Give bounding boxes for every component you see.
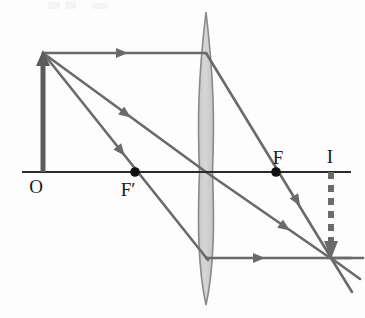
object-arrow (36, 50, 50, 172)
converging-lens (199, 12, 214, 305)
ray-overshoot-center (331, 258, 360, 279)
image-arrow (324, 172, 338, 259)
ray-overshoot-parallel (331, 258, 352, 292)
optics-ray-diagram: O F′ F I (0, 0, 365, 318)
scan-artifact (48, 1, 108, 9)
near-focus-label: F′ (121, 179, 136, 200)
ray-center-refracted (206, 172, 333, 260)
arrowhead-parallel-incident (116, 48, 128, 58)
near-focus-dot (130, 167, 140, 177)
image-label: I (327, 146, 333, 167)
far-focus-label: F (273, 147, 284, 168)
far-focus-dot (271, 167, 281, 177)
arrowhead-focal-refracted (253, 253, 265, 263)
object-label: O (29, 176, 43, 197)
ray-diagram-canvas: O F′ F I (0, 0, 365, 318)
ray-parallel-refracted (206, 53, 333, 261)
